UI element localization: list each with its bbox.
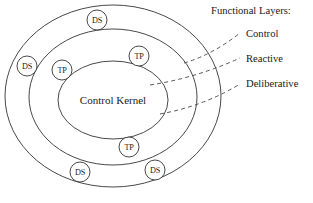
leader-line-group xyxy=(150,33,240,114)
node-ds-bottom-right: DS xyxy=(145,160,165,180)
node-ds-top: DS xyxy=(87,10,107,30)
node-label: DS xyxy=(92,16,103,25)
node-tp-upper-right: TP xyxy=(129,46,149,66)
node-tp-left: TP xyxy=(52,60,72,80)
node-label: DS xyxy=(75,168,86,177)
leader-control-line xyxy=(184,33,240,63)
node-label: TP xyxy=(134,52,144,61)
node-label: TP xyxy=(124,143,134,152)
node-label: TP xyxy=(57,66,67,75)
diagram-canvas: Control Kernel DS DS DS DS TP TP TP xyxy=(0,0,313,203)
layer-label-control: Control xyxy=(246,28,278,39)
node-ds-left: DS xyxy=(17,56,37,76)
node-tp-bottom: TP xyxy=(119,137,139,157)
leader-deliberative-line xyxy=(160,84,240,114)
node-label: DS xyxy=(150,166,161,175)
layer-label-reactive: Reactive xyxy=(246,53,283,64)
layer-label-deliberative: Deliberative xyxy=(246,78,299,89)
functional-layers-title: Functional Layers: xyxy=(211,5,291,16)
node-ds-bottom-left: DS xyxy=(70,162,90,182)
node-label: DS xyxy=(22,62,33,71)
layered-architecture-diagram: Control Kernel DS DS DS DS TP TP TP xyxy=(0,0,313,203)
control-kernel-label: Control Kernel xyxy=(80,94,146,106)
